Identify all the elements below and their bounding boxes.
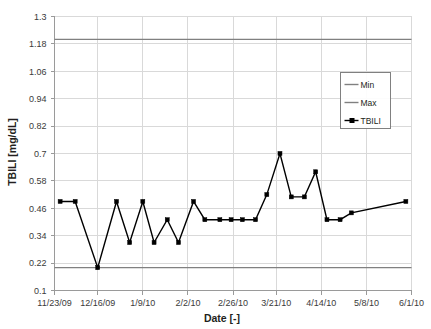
y-tick-label: 0.22 [29, 258, 47, 268]
chart-container: 0.10.220.340.460.580.70.820.941.061.181.… [0, 0, 431, 329]
y-tick-label: 0.46 [29, 204, 47, 214]
data-point-marker [218, 218, 222, 222]
data-point-marker [289, 195, 293, 199]
y-tick-label: 0.58 [29, 176, 47, 186]
y-tick-label: 0.94 [29, 94, 47, 104]
data-point-marker [177, 241, 181, 245]
y-axis-tick-labels: 0.10.220.340.460.580.70.820.941.061.181.… [29, 12, 47, 296]
y-tick-label: 0.1 [34, 286, 47, 296]
chart-legend: MinMaxTBILI [341, 73, 391, 129]
x-tick-label: 11/23/09 [37, 298, 71, 308]
x-axis-tick-labels: 11/23/0912/16/091/9/102/2/102/26/103/21/… [37, 298, 424, 308]
y-tick-label: 1.3 [34, 12, 47, 22]
legend-swatch-marker [350, 118, 355, 123]
data-point-marker [349, 211, 353, 215]
data-point-marker [58, 199, 62, 203]
data-point-marker [404, 199, 408, 203]
x-tick-label: 12/16/09 [80, 298, 115, 308]
legend-item-label: Min [361, 80, 375, 90]
x-tick-label: 6/1/10 [399, 298, 424, 308]
tbili-line-chart: 0.10.220.340.460.580.70.820.941.061.181.… [0, 0, 431, 329]
data-point-marker [203, 218, 207, 222]
y-tick-label: 1.06 [29, 67, 47, 77]
data-point-marker [73, 199, 77, 203]
data-point-marker [152, 241, 156, 245]
y-tick-label: 0.82 [29, 121, 47, 131]
x-tick-label: 2/26/10 [218, 298, 248, 308]
gridlines [55, 17, 412, 291]
data-point-marker [314, 170, 318, 174]
data-point-marker [229, 218, 233, 222]
y-tick-label: 0.34 [29, 231, 47, 241]
data-point-marker [96, 266, 100, 270]
x-axis-title: Date [-] [204, 312, 240, 324]
data-point-marker [338, 218, 342, 222]
y-axis-title: TBILI [mg/dL] [6, 118, 18, 186]
x-tick-label: 1/9/10 [130, 298, 155, 308]
data-point-marker [240, 218, 244, 222]
x-tick-label: 4/14/10 [306, 298, 336, 308]
legend-item-label: TBILI [361, 116, 381, 126]
axes [51, 17, 412, 295]
x-tick-label: 2/2/10 [175, 298, 200, 308]
data-point-marker [325, 218, 329, 222]
data-point-marker [254, 218, 258, 222]
data-point-marker [302, 195, 306, 199]
data-point-marker [278, 152, 282, 156]
x-tick-label: 3/21/10 [261, 298, 291, 308]
data-point-marker [265, 193, 269, 197]
x-tick-label: 5/8/10 [354, 298, 379, 308]
y-tick-label: 1.18 [29, 39, 47, 49]
data-point-marker [192, 199, 196, 203]
y-tick-label: 0.7 [34, 149, 47, 159]
data-point-marker [165, 218, 169, 222]
data-point-marker [141, 199, 145, 203]
legend-item-label: Max [361, 98, 378, 108]
data-point-marker [115, 199, 119, 203]
data-point-marker [128, 241, 132, 245]
